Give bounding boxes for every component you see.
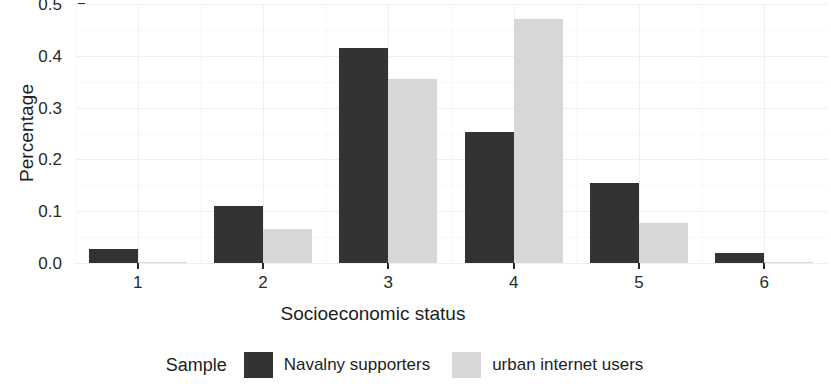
bar <box>590 183 639 263</box>
chart-legend: Sample Navalny supporters urban internet… <box>0 348 831 382</box>
x-axis-title: Socioeconomic status <box>75 303 671 325</box>
legend-entry-label: Navalny supporters <box>284 355 430 375</box>
x-axis-tick-mark <box>763 263 765 269</box>
bar <box>89 249 138 263</box>
bar-chart: Percentage 0.00.10.20.30.40.5 123456 Soc… <box>0 0 831 384</box>
x-axis-tick-label: 6 <box>744 273 784 293</box>
legend-title: Sample <box>166 355 227 376</box>
legend-swatch-icon <box>452 352 481 378</box>
x-axis-tick-label: 2 <box>243 273 283 293</box>
gridline-vertical <box>764 4 765 263</box>
legend-entry-urban-internet-users: urban internet users <box>452 352 643 378</box>
x-axis-tick-mark <box>513 263 515 269</box>
y-axis-tick-label: 0.0 <box>14 255 62 272</box>
gridline-vertical-minor <box>451 4 452 263</box>
x-axis-tick-label: 3 <box>368 273 408 293</box>
x-axis-tick-label: 4 <box>494 273 534 293</box>
x-axis-tick-mark <box>387 263 389 269</box>
gridline-vertical-minor <box>576 4 577 263</box>
legend-entry-navalny-supporters: Navalny supporters <box>244 352 430 378</box>
x-axis-ticks: 123456 <box>75 263 827 303</box>
legend-swatch-icon <box>244 352 273 378</box>
y-axis-tick-label: 0.3 <box>14 100 62 117</box>
y-axis-tick-label: 0.4 <box>14 48 62 65</box>
gridline-vertical <box>263 4 264 263</box>
bar <box>715 253 764 263</box>
x-axis-tick-mark <box>638 263 640 269</box>
gridline-vertical-minor <box>75 4 76 263</box>
x-axis-tick-label: 5 <box>619 273 659 293</box>
gridline-vertical-minor <box>200 4 201 263</box>
y-axis-tick-label: 0.2 <box>14 151 62 168</box>
y-axis-tick-label: 0.5 <box>14 0 62 13</box>
bar <box>639 223 688 263</box>
legend-entry-label: urban internet users <box>492 355 643 375</box>
gridline-vertical <box>138 4 139 263</box>
gridline-vertical-minor <box>326 4 327 263</box>
y-axis-tick-label: 0.1 <box>14 203 62 220</box>
plot-area <box>75 4 827 263</box>
x-axis-tick-mark <box>262 263 264 269</box>
bar <box>339 48 388 263</box>
bar <box>514 19 563 263</box>
bar <box>214 206 263 263</box>
bar <box>263 229 312 263</box>
y-axis-ticks: 0.00.10.20.30.40.5 <box>14 0 62 384</box>
x-axis-tick-mark <box>137 263 139 269</box>
bar <box>465 132 514 263</box>
gridline-vertical-minor <box>702 4 703 263</box>
bar <box>388 79 437 263</box>
x-axis-tick-label: 1 <box>118 273 158 293</box>
